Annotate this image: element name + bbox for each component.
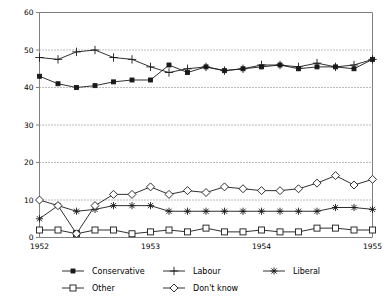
data-series [35,46,376,238]
x-tick-label-1954: 1954 [252,242,271,251]
legend-item-other[interactable]: Other [62,284,115,293]
series-markers [37,225,376,237]
series-labour [35,46,376,77]
chart-legend: ConservativeLabourLiberalOtherDon't know [62,267,320,293]
legend-label: Labour [193,267,221,276]
series-liberal [36,202,376,222]
legend-marker-open-square-icon [70,285,76,291]
legend-label: Conservative [92,267,145,276]
legend-label: Liberal [293,267,320,276]
legend-item-liberal[interactable]: Liberal [263,267,320,276]
y-tick-label-20: 20 [24,158,34,167]
legend-marker-filled-square-icon [71,269,75,273]
legend-marker-plus-icon [170,267,178,275]
x-tick-label-1952: 1952 [30,242,49,251]
gridlines [40,13,373,201]
y-tick-label-60: 60 [24,8,34,17]
legend-marker-open-diamond-icon [170,284,178,292]
x-tick-label-1955: 1955 [363,242,382,251]
legend-label: Other [92,284,115,293]
y-tick-label-10: 10 [24,196,34,205]
legend-item-don-t-know[interactable]: Don't know [163,284,239,293]
line-chart: 0102030405060 1952195319541955 Conservat… [0,0,388,296]
legend-label: Don't know [193,284,239,293]
y-tick-label-30: 30 [24,121,34,130]
axes [40,13,373,238]
chart-canvas: 0102030405060 1952195319541955 Conservat… [0,0,388,296]
y-tick-label-50: 50 [24,46,34,55]
series-other [37,225,376,237]
legend-item-labour[interactable]: Labour [163,267,221,276]
legend-item-conservative[interactable]: Conservative [62,267,145,276]
series-markers [38,57,375,89]
series-markers [36,202,376,222]
series-conservative [38,57,375,89]
x-tick-label-1953: 1953 [141,242,160,251]
legend-marker-asterisk-icon [270,267,277,274]
x-axis-tick-labels: 1952195319541955 [30,242,382,251]
y-axis-tick-labels: 0102030405060 [24,8,40,242]
y-tick-label-40: 40 [24,83,34,92]
